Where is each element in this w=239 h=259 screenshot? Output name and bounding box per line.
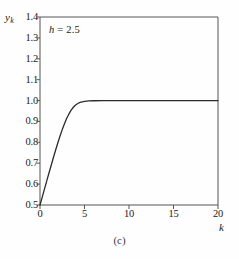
y-tick-label: 0.9 [12, 116, 38, 126]
x-axis-label: k [219, 221, 224, 233]
x-tick-label: 15 [162, 208, 186, 219]
x-tick-label: 0 [28, 208, 52, 219]
data-series-line [40, 101, 218, 205]
y-tick-label: 0.7 [12, 158, 38, 168]
figure-caption: (c) [0, 234, 239, 246]
y-tick-label: 1.4 [12, 12, 38, 22]
y-tick-label: 1.3 [12, 33, 38, 43]
axis-frame [40, 17, 218, 205]
chart-svg [40, 17, 218, 205]
figure-panel: yk 1.4 1.3 1.2 1.1 1.0 0.9 0.8 0.7 0.6 0… [0, 0, 239, 259]
y-tick-label: 1.1 [12, 75, 38, 85]
y-tick-label: 0.6 [12, 179, 38, 189]
x-tick-label: 5 [73, 208, 97, 219]
y-tick-label: 1.2 [12, 54, 38, 64]
plot-area [40, 17, 218, 205]
x-axis-tick-labels: 0 5 10 15 20 [0, 208, 239, 222]
y-tick-label: 0.8 [12, 137, 38, 147]
x-tick-label: 20 [206, 208, 230, 219]
x-tick-label: 10 [117, 208, 141, 219]
y-tick-label: 1.0 [12, 96, 38, 106]
